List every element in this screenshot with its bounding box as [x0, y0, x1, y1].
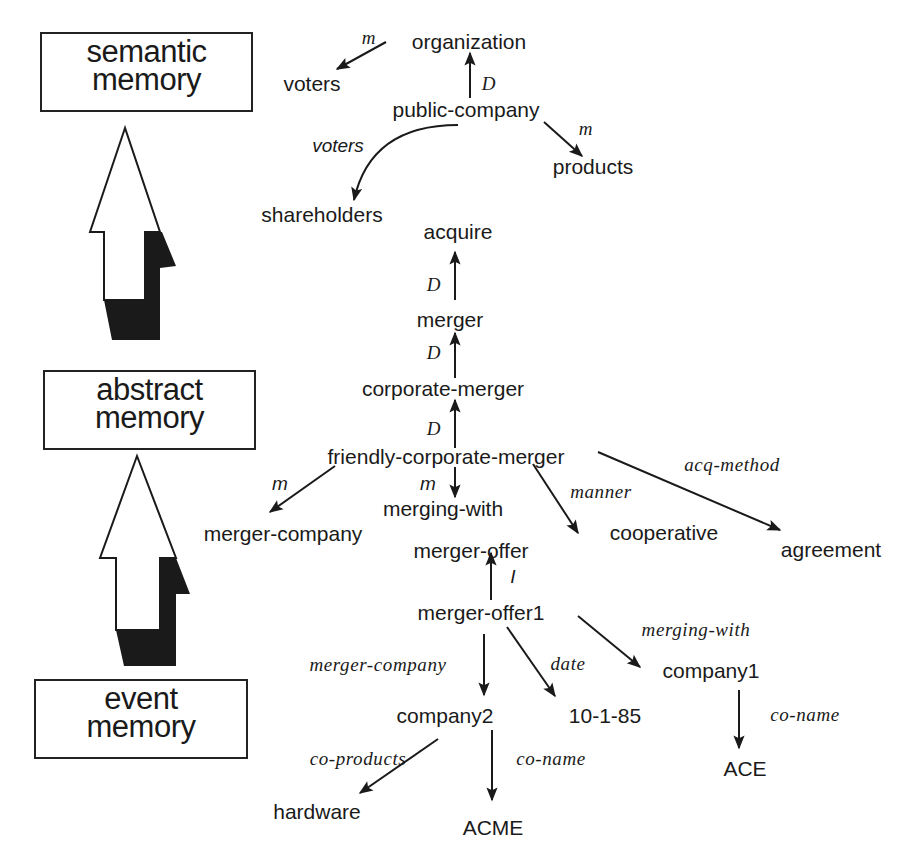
node-merging-with: merging-with: [383, 497, 503, 521]
edge-label-mo1-mo: I: [510, 567, 515, 587]
edge-label-c2-acme: co-name: [516, 749, 586, 769]
edge-pc-products: [544, 122, 582, 156]
node-corporate-merger: corporate-merger: [362, 377, 524, 401]
node-merger-company: merger-company: [204, 522, 363, 546]
edge-label-pc-shareholders: voters: [312, 136, 364, 156]
edge-label-pc-org: D: [482, 74, 496, 94]
edge-label-cm-merger: D: [427, 343, 441, 363]
edge-label-mo1-c2: merger-company: [309, 655, 446, 675]
node-hardware: hardware: [273, 800, 361, 824]
node-acme: ACME: [463, 816, 524, 840]
node-agreement: agreement: [781, 538, 881, 562]
upward-block-arrow-icon: [100, 456, 190, 666]
upward-block-arrow-icon: [90, 128, 176, 340]
edge-label-mo1-c1: merging-with: [642, 620, 751, 640]
edge-label-mo1-date: date: [550, 654, 585, 674]
node-organization: organization: [412, 30, 526, 54]
edge-label-fcm-coop: manner: [570, 482, 632, 502]
node-merger: merger: [417, 308, 484, 332]
node-friendly-corporate-merger: friendly-corporate-merger: [328, 445, 565, 469]
edge-label-fcm-agree: acq-method: [684, 455, 780, 475]
node-ace: ACE: [723, 757, 766, 781]
node-acquire: acquire: [424, 220, 493, 244]
edge-label-org-voters: m: [362, 28, 376, 48]
diagram-graphics: [0, 0, 920, 867]
node-company2: company2: [397, 704, 494, 728]
node-company1: company1: [663, 659, 760, 683]
edge-pc-shareholders: [354, 125, 458, 200]
edge-mo1-c1: [578, 616, 640, 667]
node-shareholders: shareholders: [261, 203, 382, 227]
edge-label-pc-products: m: [579, 119, 593, 139]
edge-mo1-date: [507, 627, 555, 696]
edge-label-fcm-mc: m: [272, 474, 288, 494]
node-products: products: [553, 155, 634, 179]
node-date-value: 10-1-85: [569, 704, 641, 728]
node-voters: voters: [283, 72, 340, 96]
node-merger-offer: merger-offer: [413, 539, 528, 563]
memory-hierarchy-diagram: semantic memory abstract memory event me…: [0, 0, 920, 867]
node-cooperative: cooperative: [610, 521, 719, 545]
edge-label-merger-acquire: D: [427, 275, 441, 295]
node-merger-offer1: merger-offer1: [418, 601, 545, 625]
edge-label-fcm-cm: D: [427, 419, 441, 439]
edge-label-c2-hw: co-products: [310, 749, 407, 769]
edge-label-fcm-mw: m: [420, 474, 436, 494]
node-public-company: public-company: [392, 98, 539, 122]
edge-label-c1-ace: co-name: [770, 705, 840, 725]
